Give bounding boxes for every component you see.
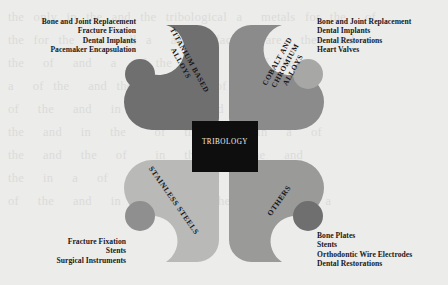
list-item: Surgical Instruments	[56, 256, 126, 265]
list-item: Dental Implants	[317, 26, 411, 35]
list-item: Fracture Fixation	[42, 26, 136, 35]
list-item: Pacemaker Encapsulation	[42, 45, 136, 54]
quadrant-shape-stainless-steels[interactable]	[124, 160, 219, 262]
list-item: Fracture Fixation	[56, 237, 126, 246]
list-item: Dental Implants	[42, 36, 136, 45]
applications-titanium: Bone and Joint Replacement Fracture Fixa…	[42, 17, 136, 54]
tribology-center-square[interactable]	[192, 121, 258, 172]
list-item: Dental Restorations	[317, 259, 412, 268]
list-item: Bone Plates	[317, 231, 412, 240]
list-item: Stents	[317, 240, 412, 249]
list-item: Dental Restorations	[317, 36, 411, 45]
tribology-center-label: TRIBOLOGY	[192, 138, 258, 146]
applications-stainless-steels: Fracture Fixation Stents Surgical Instru…	[56, 237, 126, 265]
list-item: Orthodontic Wire Electrodes	[317, 250, 412, 259]
titanium-accent-circle	[125, 59, 155, 89]
list-item: Stents	[56, 246, 126, 255]
applications-cobalt-chromium: Bone and Joint Replacement Dental Implan…	[317, 17, 411, 54]
list-item: Heart Valves	[317, 45, 411, 54]
list-item: Bone and Joint Replacement	[42, 17, 136, 26]
others-accent-circle	[293, 201, 323, 231]
figure-canvas: the only in the and the tribological a m…	[0, 0, 448, 285]
list-item: Bone and Joint Replacement	[317, 17, 411, 26]
applications-others: Bone Plates Stents Orthodontic Wire Elec…	[317, 231, 412, 268]
stainless-steels-accent-circle	[125, 201, 155, 231]
